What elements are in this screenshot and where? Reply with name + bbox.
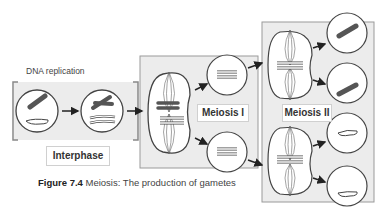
meiosis1-dividing-cell — [148, 72, 190, 154]
figure-caption: Figure 7.4 Meiosis: The production of ga… — [38, 177, 236, 188]
gamete-3 — [327, 113, 367, 153]
gamete-4 — [327, 166, 367, 206]
meiosis1-daughter-bottom — [207, 132, 247, 172]
dna-replication-label: DNA replication — [26, 66, 85, 76]
figure-number: Figure 7.4 — [38, 177, 83, 188]
gamete-1 — [327, 13, 367, 53]
meiosis1-label: Meiosis I — [197, 104, 249, 122]
gamete-2 — [327, 63, 367, 103]
meiosis2-dividing-cell-bottom — [268, 126, 312, 196]
meiosis2-label: Meiosis II — [282, 104, 332, 122]
interphase-label: Interphase — [46, 146, 110, 166]
figure-caption-text: Meiosis: The production of gametes — [83, 177, 236, 188]
interphase-cell-1 — [16, 90, 58, 132]
meiosis2-dividing-cell-top — [268, 30, 312, 100]
interphase-cell-2 — [81, 90, 123, 132]
meiosis1-daughter-top — [207, 55, 247, 95]
